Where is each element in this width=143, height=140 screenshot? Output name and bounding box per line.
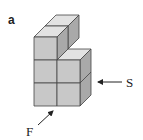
front-view-arrow: F bbox=[26, 111, 53, 139]
isometric-cube-diagram: a S F bbox=[0, 0, 143, 140]
side-view-arrow: S bbox=[98, 75, 133, 90]
cube-solid bbox=[34, 15, 91, 106]
front-view-label: F bbox=[26, 124, 33, 139]
side-view-label: S bbox=[126, 75, 133, 90]
front-faces bbox=[34, 60, 80, 106]
panel-label: a bbox=[8, 13, 15, 27]
